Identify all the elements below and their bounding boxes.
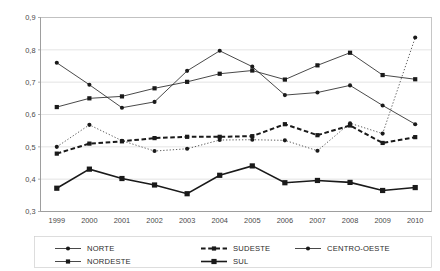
data-point-marker <box>87 142 91 146</box>
data-point-marker <box>218 49 222 53</box>
data-point-marker <box>250 163 255 168</box>
legend-label: SUDESTE <box>233 244 270 253</box>
data-point-marker <box>381 141 385 145</box>
legend-item-nordeste[interactable]: NORDESTE <box>55 257 131 266</box>
data-point-marker <box>381 73 385 77</box>
data-point-marker <box>218 72 222 76</box>
data-point-marker <box>413 135 417 139</box>
x-tick-label: 2007 <box>309 216 325 225</box>
legend-item-sul[interactable]: SUL <box>201 257 248 266</box>
series-line <box>57 38 415 151</box>
data-point-marker <box>66 259 70 263</box>
x-tick-label: 2000 <box>81 216 97 225</box>
y-tick-label: 0,8 <box>25 46 35 55</box>
data-point-marker <box>87 167 92 172</box>
data-point-marker <box>54 186 59 191</box>
data-point-marker <box>87 83 91 87</box>
chart-canvas: 0,30,40,50,60,70,80,9 199920002001200220… <box>0 0 440 271</box>
data-point-marker <box>152 136 156 140</box>
data-point-marker <box>413 35 417 39</box>
data-point-marker <box>185 69 189 73</box>
series-line <box>57 53 415 107</box>
legend-label: NORTE <box>87 244 114 253</box>
x-tick-label: 2010 <box>407 216 423 225</box>
data-point-marker <box>211 259 216 264</box>
legend-label: CENTRO-OESTE <box>327 244 390 253</box>
data-point-marker <box>315 90 319 94</box>
data-point-marker <box>250 134 254 138</box>
data-point-marker <box>348 83 352 87</box>
data-point-marker <box>348 51 352 55</box>
y-tick-label: 0,4 <box>25 175 35 184</box>
x-tick-label: 2003 <box>179 216 195 225</box>
data-point-marker <box>212 246 216 250</box>
legend-label: NORDESTE <box>87 257 131 266</box>
data-point-marker <box>306 246 310 250</box>
data-series-group <box>54 35 418 196</box>
x-tick-label: 1999 <box>49 216 65 225</box>
data-point-marker <box>66 246 70 250</box>
data-point-marker <box>315 63 319 67</box>
data-point-marker <box>152 149 156 153</box>
data-point-marker <box>315 133 319 137</box>
data-point-marker <box>413 122 417 126</box>
data-point-marker <box>283 138 287 142</box>
data-point-marker <box>120 94 124 98</box>
y-tick-label: 0,9 <box>25 13 35 22</box>
data-point-marker <box>185 147 189 151</box>
y-axis-ticks: 0,30,40,50,60,70,80,9 <box>25 13 40 216</box>
legend-item-sudeste[interactable]: SUDESTE <box>201 244 270 253</box>
data-point-marker <box>185 135 189 139</box>
data-point-marker <box>380 188 385 193</box>
series-line <box>57 166 415 194</box>
legend-label: SUL <box>233 257 248 266</box>
series-line <box>57 51 415 124</box>
data-point-marker <box>152 86 156 90</box>
data-point-marker <box>87 123 91 127</box>
x-tick-label: 2008 <box>342 216 358 225</box>
series-nordeste <box>55 51 418 110</box>
data-point-marker <box>250 138 254 142</box>
data-point-marker <box>315 178 320 183</box>
data-point-marker <box>217 173 222 178</box>
data-point-marker <box>120 106 124 110</box>
data-point-marker <box>119 176 124 181</box>
data-point-marker <box>283 93 287 97</box>
line-chart: 0,30,40,50,60,70,80,9 199920002001200220… <box>0 0 440 271</box>
data-point-marker <box>413 185 418 190</box>
data-point-marker <box>250 68 254 72</box>
data-point-marker <box>55 105 59 109</box>
data-point-marker <box>218 138 222 142</box>
series-sudeste <box>55 122 418 156</box>
data-point-marker <box>347 180 352 185</box>
data-point-marker <box>55 152 59 156</box>
data-point-marker <box>152 100 156 104</box>
data-point-marker <box>55 145 59 149</box>
data-point-marker <box>120 139 124 143</box>
x-tick-label: 2001 <box>114 216 130 225</box>
data-point-marker <box>185 80 189 84</box>
series-sul <box>54 163 418 196</box>
legend-item-norte[interactable]: NORTE <box>55 244 114 253</box>
y-tick-label: 0,7 <box>25 78 35 87</box>
x-axis-ticks: 1999200020012002200320042005200620072008… <box>49 216 424 225</box>
x-tick-label: 2002 <box>146 216 162 225</box>
data-point-marker <box>283 77 287 81</box>
data-point-marker <box>55 61 59 65</box>
y-tick-label: 0,6 <box>25 110 35 119</box>
legend-item-centro-oeste[interactable]: CENTRO-OESTE <box>295 244 390 253</box>
x-tick-label: 2006 <box>277 216 293 225</box>
y-tick-label: 0,3 <box>25 207 35 216</box>
x-tick-label: 2004 <box>211 216 227 225</box>
series-centro-oeste <box>55 35 418 153</box>
gridlines <box>41 18 432 180</box>
data-point-marker <box>381 132 385 136</box>
series-line <box>57 124 415 153</box>
data-point-marker <box>283 122 287 126</box>
x-tick-label: 2005 <box>244 216 260 225</box>
chart-legend: NORTESUDESTECENTRO-OESTENORDESTESUL <box>35 237 432 268</box>
y-tick-label: 0,5 <box>25 143 35 152</box>
data-point-marker <box>185 191 190 196</box>
data-point-marker <box>315 149 319 153</box>
data-point-marker <box>381 103 385 107</box>
